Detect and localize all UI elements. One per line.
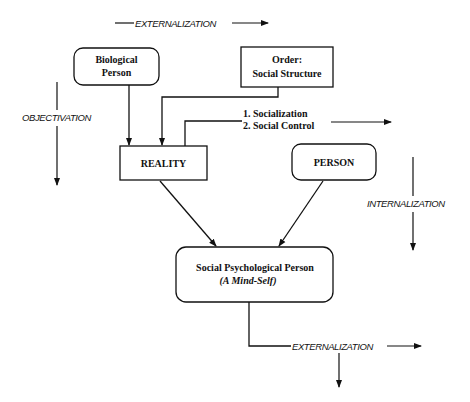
node-order-social-structure: Order: Social Structure [241, 47, 333, 87]
objectivation-flow: OBJECTIVATION [22, 82, 92, 185]
node-reality: REALITY [120, 146, 207, 180]
svg-text:PERSON: PERSON [314, 157, 355, 168]
process-item-social-control: 2. Social Control [243, 120, 314, 131]
edge-reality-to-spp [160, 181, 216, 246]
svg-text:(A Mind-Self): (A Mind-Self) [220, 275, 277, 287]
externalization-top: EXTERNALIZATION [115, 18, 268, 29]
process-list: 1. Socialization 2. Social Control [243, 108, 391, 131]
internalization-label: INTERNALIZATION [367, 198, 445, 209]
diagram-canvas: EXTERNALIZATION Biological Person Order:… [0, 0, 470, 402]
svg-text:Person: Person [102, 67, 132, 78]
node-social-psychological-person: Social Psychological Person (A Mind-Self… [176, 247, 333, 302]
node-person: PERSON [292, 144, 376, 180]
internalization-flow: INTERNALIZATION [367, 157, 445, 250]
edge-person-to-spp [279, 181, 323, 246]
svg-text:Social Structure: Social Structure [253, 68, 323, 79]
svg-text:Biological: Biological [95, 54, 137, 65]
svg-text:REALITY: REALITY [141, 158, 187, 169]
externalization-top-label: EXTERNALIZATION [135, 18, 216, 29]
node-biological-person: Biological Person [74, 48, 159, 85]
externalization-bottom: EXTERNALIZATION [249, 302, 421, 387]
externalization-bottom-label: EXTERNALIZATION [292, 341, 373, 352]
svg-text:Social Psychological Person: Social Psychological Person [196, 262, 314, 273]
objectivation-label: OBJECTIVATION [22, 112, 92, 123]
svg-text:Order:: Order: [272, 54, 302, 65]
edge-reality-to-socialization [185, 121, 242, 146]
process-item-socialization: 1. Socialization [243, 108, 308, 119]
